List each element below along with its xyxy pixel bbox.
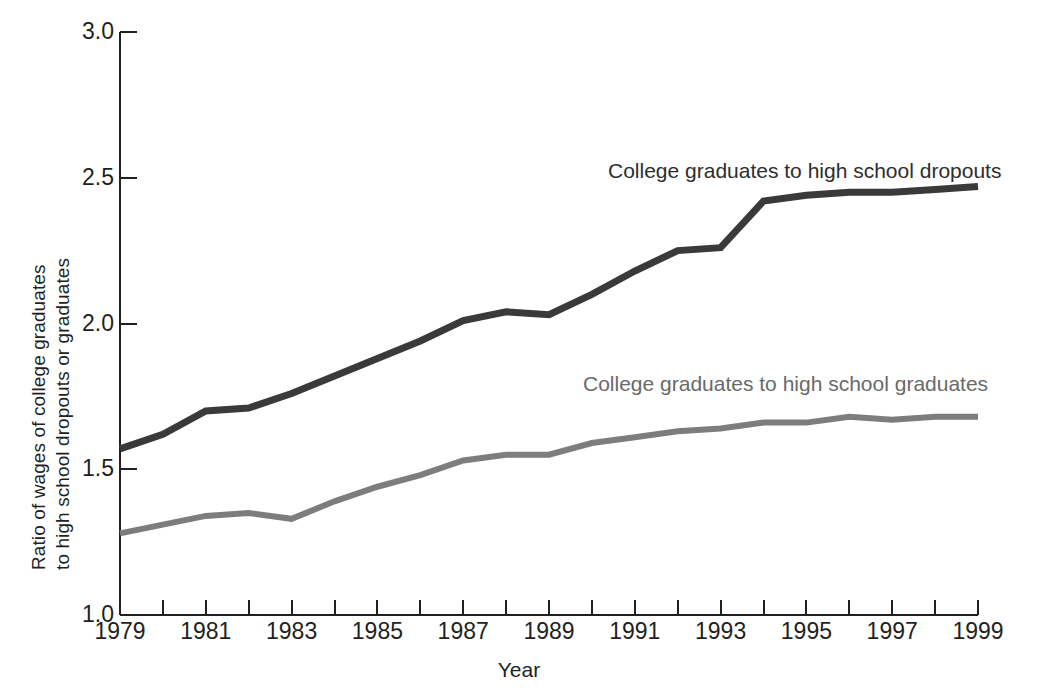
series-label-0: College graduates to high school dropout… bbox=[608, 160, 1001, 181]
series-line-1 bbox=[120, 417, 978, 534]
chart-page: Ratio of wages of college graduates to h… bbox=[0, 0, 1038, 695]
series-label-1: College graduates to high school graduat… bbox=[583, 373, 988, 394]
chart-plot-area bbox=[0, 0, 1038, 695]
series-line-0 bbox=[120, 186, 978, 448]
